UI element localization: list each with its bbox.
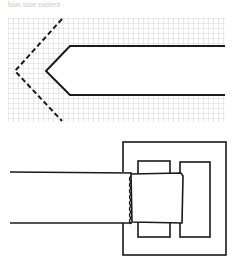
strap-tip-fill bbox=[46, 46, 225, 95]
strap bbox=[10, 172, 132, 223]
diagram-canvas bbox=[0, 0, 233, 259]
buckle-bar-right bbox=[180, 162, 210, 237]
strap-top-edge bbox=[10, 172, 132, 173]
strap-fold-loop bbox=[130, 173, 184, 224]
